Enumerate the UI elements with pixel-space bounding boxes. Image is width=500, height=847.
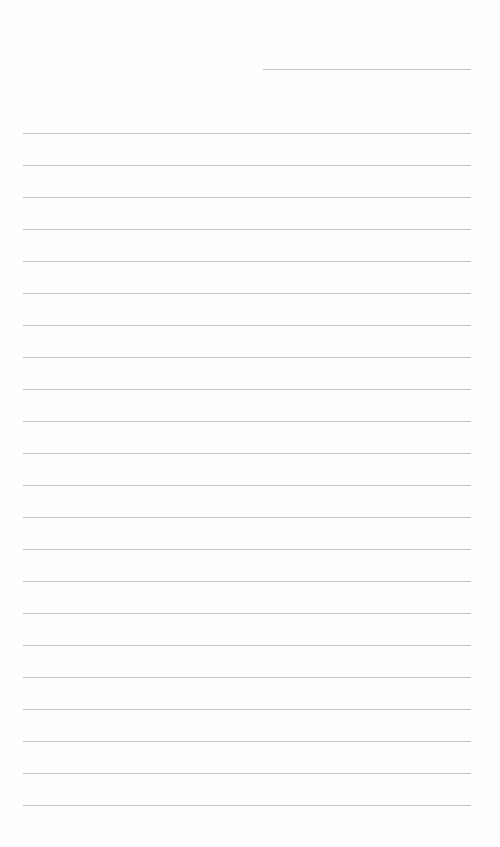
lined-paper-page <box>0 0 500 847</box>
ruled-line <box>23 293 471 294</box>
ruled-line <box>23 645 471 646</box>
ruled-line <box>23 453 471 454</box>
ruled-line <box>23 325 471 326</box>
ruled-line <box>23 485 471 486</box>
header-date-line <box>263 69 471 70</box>
ruled-line <box>23 389 471 390</box>
ruled-line <box>23 517 471 518</box>
ruled-line <box>23 549 471 550</box>
ruled-line <box>23 165 471 166</box>
ruled-line <box>23 197 471 198</box>
ruled-line <box>23 421 471 422</box>
ruled-line <box>23 773 471 774</box>
ruled-line <box>23 357 471 358</box>
ruled-line <box>23 261 471 262</box>
ruled-line <box>23 741 471 742</box>
ruled-line <box>23 229 471 230</box>
ruled-line <box>23 709 471 710</box>
ruled-line <box>23 581 471 582</box>
ruled-line <box>23 677 471 678</box>
ruled-line <box>23 133 471 134</box>
ruled-line <box>23 805 471 806</box>
ruled-line <box>23 613 471 614</box>
